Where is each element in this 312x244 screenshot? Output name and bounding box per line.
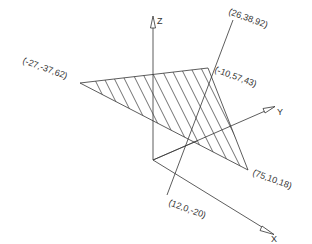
plane-point-label-2: (-10,57,43)	[213, 64, 258, 88]
x-axis	[153, 160, 270, 232]
line-point-label-2: (12,0,-20)	[167, 197, 207, 220]
x-axis-label: X	[271, 234, 277, 244]
y-axis-label: Y	[277, 107, 283, 117]
z-axis-arrow-icon	[151, 16, 156, 28]
diagram-canvas: Z Y X (-27,-37,62) (-10,57,43) (75,10,18…	[0, 0, 312, 244]
plane-point-label-3: (75,10,18)	[251, 167, 293, 190]
projection-lines	[153, 141, 197, 160]
z-axis-label: Z	[157, 16, 163, 26]
plane-point-label-1: (-27,-37,62)	[21, 55, 69, 80]
line-point-label-1: (26,38,92)	[227, 6, 269, 29]
plane-triangle	[80, 66, 270, 190]
y-axis-arrow-icon	[263, 107, 275, 114]
